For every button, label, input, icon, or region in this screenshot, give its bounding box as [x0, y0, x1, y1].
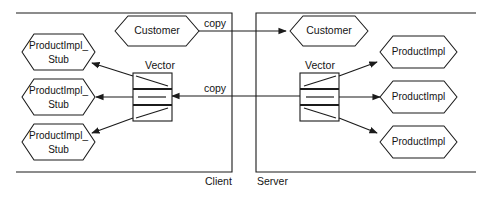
client-server-copy-diagram: Customer Vector ProductImpl_ Stub	[0, 0, 490, 198]
server-impl-2-label: ProductImpl	[392, 136, 445, 147]
server-impl-node-0: ProductImpl	[380, 36, 457, 68]
zone-label-client: Client	[205, 175, 232, 187]
client-stub-2-line1: ProductImpl_	[29, 130, 88, 141]
edge-label-copy-vector: copy	[204, 82, 227, 94]
server-vector-label: Vector	[305, 59, 335, 71]
client-stub-node-0: ProductImpl_ Stub	[22, 34, 95, 70]
client-stub-node-2: ProductImpl_ Stub	[22, 124, 95, 160]
server-impl-1-label: ProductImpl	[392, 91, 445, 102]
client-stub-1-line1: ProductImpl_	[29, 85, 88, 96]
server-impl-0-label: ProductImpl	[392, 46, 445, 57]
client-vector-to-stub-arrows	[92, 63, 133, 133]
client-stub-0-line1: ProductImpl_	[29, 40, 88, 51]
client-stub-0-line2: Stub	[48, 54, 69, 65]
diagram-canvas: Customer Vector ProductImpl_ Stub	[0, 0, 490, 198]
server-impl-node-2: ProductImpl	[380, 126, 457, 158]
client-stub-node-1: ProductImpl_ Stub	[22, 79, 95, 115]
edge-label-copy-customer: copy	[204, 17, 227, 29]
zone-label-server: Server	[257, 175, 288, 187]
server-vector-to-impl-arrows	[339, 62, 380, 133]
client-stub-2-line2: Stub	[48, 144, 69, 155]
client-stub-1-line2: Stub	[48, 99, 69, 110]
server-customer-node: Customer	[290, 16, 368, 46]
server-customer-label: Customer	[306, 24, 352, 36]
server-vector-node: Vector	[300, 59, 339, 121]
client-customer-label: Customer	[134, 24, 180, 36]
client-customer-node: Customer	[115, 16, 199, 46]
server-impl-node-1: ProductImpl	[380, 81, 457, 113]
client-vector-node: Vector	[133, 59, 175, 121]
client-vector-label: Vector	[145, 59, 175, 71]
